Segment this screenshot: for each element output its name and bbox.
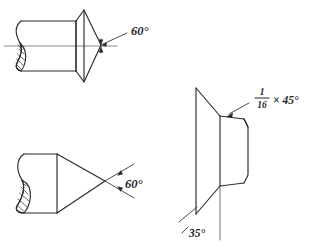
boss-bottom-edge-right xyxy=(220,183,244,186)
angle-label-35-right: 35° xyxy=(188,227,206,239)
leader-tick-35-right xyxy=(182,227,188,233)
chamfer-face-right xyxy=(244,119,248,127)
cone-point-outline-bl xyxy=(57,154,105,213)
leader-line-60-tl xyxy=(103,33,127,44)
angle-label-60-top-left: 60° xyxy=(131,24,149,38)
boss-front-face-right xyxy=(244,119,248,183)
chamfer-fraction-denominator: 16 xyxy=(257,100,267,110)
technical-drawing-canvas: 60° 60° xyxy=(0,0,321,250)
flange-flare-bottom-right xyxy=(196,186,220,214)
angle-label-60-bottom-left: 60° xyxy=(125,177,143,191)
leader-line-35-right xyxy=(179,207,197,222)
leader-line-chamfer-right xyxy=(229,103,249,114)
view-bottom-left: 60° xyxy=(16,154,142,213)
chamfer-fraction-numerator: 1 xyxy=(260,87,265,97)
chamfer-angle-label: × 45° xyxy=(273,94,299,106)
view-top-left: 60° xyxy=(4,10,149,82)
section-hatching-bl xyxy=(17,182,29,211)
flange-flare-top-right xyxy=(196,88,220,116)
view-right: 1 16 × 45° 35° xyxy=(179,87,299,240)
